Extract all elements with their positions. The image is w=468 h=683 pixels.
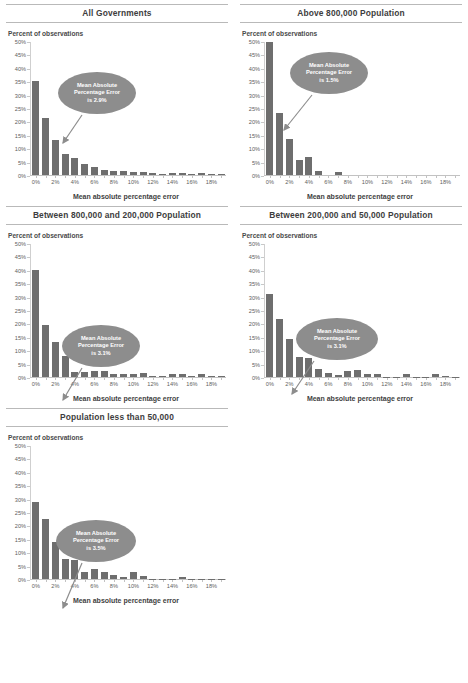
bar-cell xyxy=(51,41,61,175)
x-tick-mark xyxy=(436,176,437,178)
x-tick-mark xyxy=(221,378,222,380)
bar-cell xyxy=(285,243,295,377)
x-tick-label: 6% xyxy=(324,381,332,388)
x-tick-mark xyxy=(114,176,115,178)
bar xyxy=(266,42,273,175)
bar xyxy=(208,376,215,377)
x-tick-mark xyxy=(36,580,37,582)
x-tick-cell: 0% xyxy=(31,176,41,190)
y-tick-label: 25% xyxy=(249,106,260,112)
bar xyxy=(169,374,176,377)
y-tick-label: 15% xyxy=(249,133,260,139)
x-tick-cell: 2% xyxy=(285,176,295,190)
x-tick-cell xyxy=(80,176,90,190)
x-tick-cell xyxy=(294,378,304,392)
x-tick-cell: 10% xyxy=(363,176,373,190)
x-tick-mark xyxy=(221,176,222,178)
bar xyxy=(32,270,39,377)
x-tick-mark xyxy=(172,176,173,178)
y-tick-label: 0% xyxy=(18,173,26,179)
x-tick-mark xyxy=(348,378,349,380)
bar xyxy=(335,172,342,175)
bar xyxy=(101,572,108,580)
x-tick-mark xyxy=(124,176,125,178)
bar xyxy=(62,154,69,175)
y-tick-label: 5% xyxy=(18,362,26,368)
bar xyxy=(91,167,98,175)
bar xyxy=(110,374,117,377)
y-tick-label: 40% xyxy=(249,268,260,274)
x-tick-mark xyxy=(182,378,183,380)
y-tick-label: 40% xyxy=(15,66,26,72)
bar-cell xyxy=(197,243,207,377)
x-tick-mark xyxy=(36,378,37,380)
y-tick-label: 20% xyxy=(15,321,26,327)
bar-cell xyxy=(148,41,158,175)
x-tick-mark xyxy=(338,176,339,178)
x-tick-cell: 4% xyxy=(304,176,314,190)
x-tick-cell xyxy=(60,580,70,594)
x-tick-mark xyxy=(280,176,281,178)
x-tick-mark xyxy=(94,580,95,582)
y-tick-label: 0% xyxy=(252,173,260,179)
mape-callout: Mean AbsolutePercentage Erroris 2.9% xyxy=(58,72,136,114)
x-tick-mark xyxy=(172,378,173,380)
x-tick-label: 4% xyxy=(305,179,313,186)
x-tick-cell xyxy=(41,378,51,392)
bar xyxy=(81,372,88,377)
bar-cell xyxy=(51,243,61,377)
x-tick-label: 0% xyxy=(32,381,40,388)
x-tick-mark xyxy=(143,580,144,582)
x-tick-cell: 14% xyxy=(402,378,412,392)
bar-cell xyxy=(372,243,382,377)
x-tick-mark xyxy=(104,580,105,582)
bar-cell xyxy=(265,41,275,175)
y-tick-mark xyxy=(27,176,30,177)
bar xyxy=(81,164,88,175)
y-axis-label: Percent of observations xyxy=(242,231,462,240)
bar xyxy=(71,158,78,175)
x-tick-mark xyxy=(182,580,183,582)
callout-text-line3: is 1.5% xyxy=(319,77,338,84)
bar xyxy=(32,81,39,175)
x-tick-mark xyxy=(416,378,417,380)
bar-cell xyxy=(363,41,373,175)
bar-cell xyxy=(177,445,187,579)
y-tick-label: 10% xyxy=(15,550,26,556)
bar xyxy=(188,174,195,175)
mape-callout: Mean AbsolutePercentage Erroris 1.5% xyxy=(290,52,368,94)
bar-cell xyxy=(216,243,226,377)
x-tick-mark xyxy=(133,580,134,582)
bar-cell xyxy=(60,41,70,175)
y-tick-label: 50% xyxy=(249,39,260,45)
y-tick-label: 25% xyxy=(15,308,26,314)
y-tick-label: 10% xyxy=(15,348,26,354)
bar-cell xyxy=(441,41,451,175)
bar xyxy=(159,376,166,377)
bar-cell xyxy=(168,41,178,175)
x-tick-mark xyxy=(416,176,417,178)
y-tick-label: 5% xyxy=(252,362,260,368)
x-tick-label: 8% xyxy=(110,583,118,590)
x-tick-mark xyxy=(289,378,290,380)
bar xyxy=(101,371,108,377)
x-tick-cell: 16% xyxy=(187,176,197,190)
y-axis: 0%5%10%15%20%25%30%35%40%45%50% xyxy=(240,244,264,378)
plot-area: 0%5%10%15%20%25%30%35%40%45%50%0%2%4%6%8… xyxy=(6,42,228,190)
x-tick-cell: 6% xyxy=(90,378,100,392)
x-tick-mark xyxy=(202,378,203,380)
bar-cell xyxy=(421,41,431,175)
bar xyxy=(296,160,303,175)
x-tick-mark xyxy=(367,378,368,380)
y-tick-label: 20% xyxy=(15,523,26,529)
panel-title-rule: All Governments xyxy=(6,4,228,23)
y-tick-label: 20% xyxy=(249,119,260,125)
bar xyxy=(218,174,225,175)
bar xyxy=(208,174,215,175)
bar-series xyxy=(265,243,460,377)
x-tick-mark xyxy=(299,378,300,380)
y-tick-label: 20% xyxy=(15,119,26,125)
bar xyxy=(305,157,312,175)
bar-cell xyxy=(129,41,139,175)
bar-cell xyxy=(197,445,207,579)
